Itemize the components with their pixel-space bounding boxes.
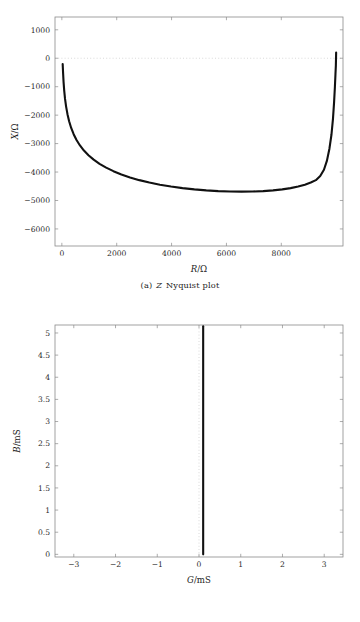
y-tick-label: −6000 [24,225,50,234]
x-tick-label: −2 [110,560,121,569]
x-tick-label: 1 [238,560,243,569]
y-axis-title: X/Ω [10,123,20,140]
x-tick-label: 2 [280,560,285,569]
x-tick-label: 6000 [217,249,236,258]
y-tick-label: −2000 [24,111,50,120]
data-series-curve [63,53,336,192]
y-tick-label: −3000 [24,139,50,148]
y-tick-label: 2.5 [38,439,50,448]
y-tick-label: −4000 [24,168,50,177]
x-tick-label: 3 [322,560,327,569]
caption-a-prefix: (a) [141,280,153,290]
y-tick-label: 3.5 [38,395,50,404]
y-tick-label: 1 [45,506,50,515]
z-nyquist-plot: 0200040006000800010000−1000−2000−3000−40… [0,0,360,278]
x-axis-unit: /mS [194,575,211,585]
y-axis-unit: /mS [12,429,22,446]
caption-a-text: Nyquist plot [166,280,220,290]
y-axis-symbol: B [12,446,22,453]
caption-a: (a) Z Nyquist plot [0,280,360,290]
figure-panel-b: −3−2−1012300.511.522.533.544.55G/mSB/mS … [0,300,360,622]
y-tick-label: 3 [45,417,50,426]
x-axis-title: R/Ω [190,264,208,274]
x-tick-label: −3 [68,560,79,569]
x-tick-label: 2000 [107,249,126,258]
y-tick-label: −1000 [24,82,50,91]
x-tick-label: 4000 [162,249,181,258]
y-tick-label: 4 [45,373,50,382]
plot-b-container: −3−2−1012300.511.522.533.544.55G/mSB/mS [0,300,360,590]
y-tick-label: 0 [45,550,50,559]
x-axis-title: G/mS [187,575,211,585]
plot-a-container: 0200040006000800010000−1000−2000−3000−40… [0,0,360,278]
x-tick-label: −1 [152,560,163,569]
y-tick-label: 5 [45,329,50,338]
y-tick-label: 1000 [31,26,50,35]
x-axis-unit: /Ω [197,264,207,274]
x-tick-label: 0 [59,249,64,258]
caption-a-symbol: Z [155,280,163,290]
y-tick-label: 1.5 [38,484,50,493]
y-nyquist-plot: −3−2−1012300.511.522.533.544.55G/mSB/mS [0,300,360,590]
x-tick-label: 0 [197,560,202,569]
y-tick-label: 2 [45,461,50,470]
y-tick-label: 4.5 [38,351,50,360]
figure-panel-a: 0200040006000800010000−1000−2000−3000−40… [0,0,360,300]
y-axis-unit: /Ω [10,123,20,133]
plot-frame [55,17,343,246]
x-tick-label: 8000 [272,249,291,258]
y-tick-label: 0.5 [38,528,50,537]
y-tick-label: 0 [45,54,50,63]
y-tick-label: −5000 [24,196,50,205]
y-axis-title: B/mS [12,429,22,453]
